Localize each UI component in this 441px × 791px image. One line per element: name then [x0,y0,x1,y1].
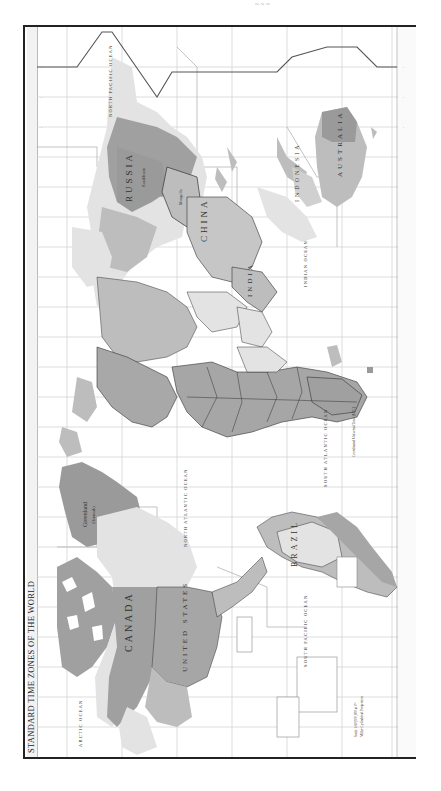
legend-title: Coordinated Universal Time (UTC) [352,406,356,457]
label-mongolia: Mongolia [178,189,183,205]
label-china: CHINA [199,199,209,243]
label-greenland: Greenland [82,502,88,527]
label-indian-ocean: INDIAN OCEAN [303,240,308,287]
label-russia: RUSSIA [124,152,134,202]
label-united-states: UNITED STATES [181,581,189,672]
svg-text:·: · [41,126,42,130]
label-north-atlantic: NORTH ATLANTIC OCEAN [183,468,188,547]
label-kazakhstan: Kazakhstan [141,168,146,187]
svg-text:·: · [41,66,42,70]
label-north-pacific: NORTH PACIFIC OCEAN [108,44,113,117]
label-greenland-sub: (Denmark) [91,506,96,524]
projection-note: Miller Cylindrical Projection [360,696,364,737]
date-line [37,32,397,97]
svg-text:·: · [403,66,404,70]
label-india: INDIA [246,262,254,297]
label-australia: AUSTRALIA [336,110,344,177]
label-indonesia: INDONESIA [294,142,300,202]
scale-note: Scale 1:80,000,000 at 0° [354,702,359,737]
svg-text:·: · [403,126,404,130]
map-frame: STANDARD TIME ZONES OF THE WORLD [23,25,416,759]
world-time-zone-map: RUSSIA CHINA INDIA AUSTRALIA INDONESIA C… [37,27,416,757]
svg-text:·: · [41,96,42,100]
label-brazil: BRAZIL [290,520,299,567]
label-south-atlantic: SOUTH ATLANTIC OCEAN [323,409,328,488]
label-south-pacific: SOUTH PACIFIC OCEAN [303,595,308,667]
svg-text:·: · [403,96,404,100]
label-canada: CANADA [123,591,134,652]
page-header-fragment: ~ ~ ~ [255,0,270,8]
label-arctic-ocean: ARCTIC OCEAN [78,699,83,747]
legend-swatch [367,367,373,373]
